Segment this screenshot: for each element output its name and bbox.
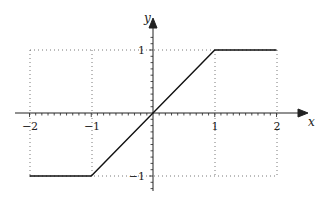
y-tick-1: 1 xyxy=(138,44,145,57)
x-tick-m1: −1 xyxy=(84,120,100,133)
x-tick-1: 1 xyxy=(212,120,219,133)
x-tick-m2: −2 xyxy=(22,120,38,133)
x-axis-label: x xyxy=(308,115,315,129)
y-axis-label: y xyxy=(143,11,151,25)
x-tick-2: 2 xyxy=(274,120,281,133)
chart: −2 −1 1 2 1 −1 x y xyxy=(0,0,327,200)
y-tick-m1: −1 xyxy=(129,170,145,183)
x-axis-arrow-icon xyxy=(298,109,308,117)
